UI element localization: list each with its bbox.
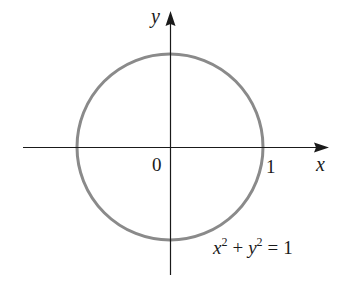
x-tick-label-1: 1 bbox=[266, 156, 276, 177]
x-axis-label: x bbox=[315, 153, 325, 175]
circle-equation: x2+y2=1 bbox=[212, 235, 293, 258]
origin-label: 0 bbox=[152, 154, 162, 175]
y-axis-label: y bbox=[149, 5, 160, 28]
unit-circle-diagram: y x 0 1 x2+y2=1 bbox=[0, 0, 355, 283]
y-axis-arrow-icon bbox=[166, 11, 176, 26]
x-axis-arrow-icon bbox=[314, 143, 329, 153]
